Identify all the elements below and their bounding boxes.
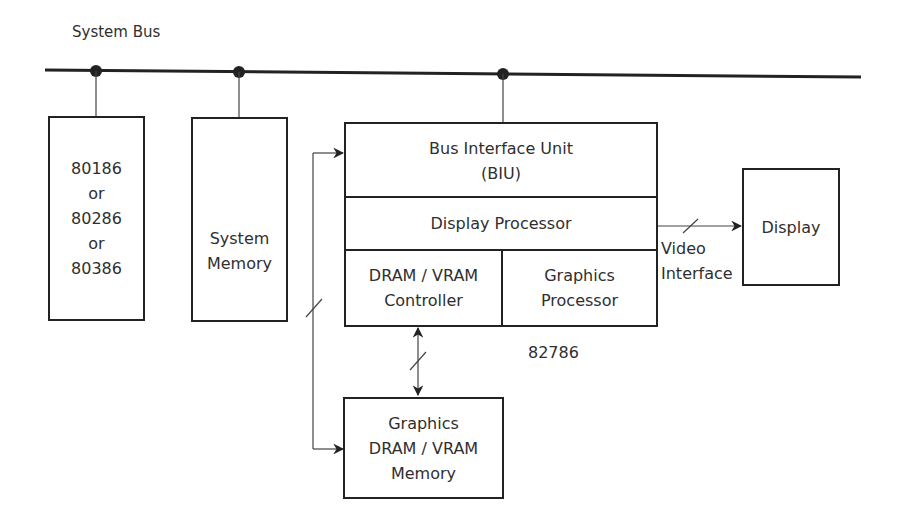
bus-width-slash [306, 299, 322, 317]
system-bus-label: System Bus [72, 20, 160, 45]
display-processor-block: Display Processor [346, 198, 656, 249]
graphics-memory-label: Graphics DRAM / VRAM Memory [343, 397, 504, 499]
cpu-label: 80186 or 80286 or 80386 [48, 116, 145, 321]
chip-name-label: 82786 [528, 340, 579, 365]
graphics-processor-block: Graphics Processor [503, 251, 656, 325]
system-memory-label: System Memory [191, 180, 288, 322]
display-label: Display [742, 168, 840, 286]
system-bus-line [45, 70, 861, 77]
biu-block: Bus Interface Unit (BIU) [346, 125, 656, 196]
video-interface-label: Video Interface [661, 236, 733, 286]
dram-controller-block: DRAM / VRAM Controller [346, 251, 501, 325]
